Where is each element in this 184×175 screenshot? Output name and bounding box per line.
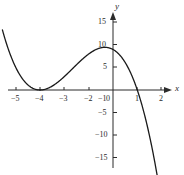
x-tick-label--4: −4 [35, 95, 44, 103]
y-tick-label--15: −15 [95, 154, 108, 162]
x-tick-label--3: −3 [59, 95, 68, 103]
y-tick-label-10: 10 [98, 41, 106, 49]
function-graph-figure: −5 −4 −3 −2 −1 0 1 2 15 10 5 −5 −10 −15 … [0, 0, 184, 175]
x-tick-label--5: −5 [11, 95, 20, 103]
y-tick-label--5: −5 [98, 109, 107, 117]
y-axis-label: y [115, 2, 119, 11]
x-tick-label-0: 0 [106, 95, 110, 103]
x-tick-label--2: −2 [84, 95, 93, 103]
x-tick-label-1: 1 [135, 95, 139, 103]
y-tick-label-15: 15 [98, 18, 106, 26]
y-axis-arrow-icon [110, 12, 116, 20]
x-axis-label: x [175, 84, 179, 93]
plot-canvas [0, 0, 184, 175]
x-tick-label-2: 2 [159, 95, 163, 103]
y-tick-label--10: −10 [95, 131, 108, 139]
x-axis-arrow-icon [164, 87, 172, 93]
y-tick-label-5: 5 [103, 63, 107, 71]
